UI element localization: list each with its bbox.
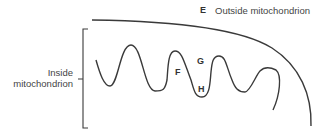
inside-bracket xyxy=(78,29,88,128)
label-F: F xyxy=(175,67,181,77)
inside-label-line1: Inside xyxy=(13,67,73,78)
inside-label-line2: mitochondrion xyxy=(13,78,73,89)
outside-mitochondrion-label: Outside mitochondrion xyxy=(215,5,310,16)
label-H: H xyxy=(198,84,205,94)
inside-mitochondrion-label: Inside mitochondrion xyxy=(13,67,73,89)
inner-membrane-cristae xyxy=(96,45,280,110)
label-G: G xyxy=(197,56,204,66)
label-E: E xyxy=(200,5,206,15)
